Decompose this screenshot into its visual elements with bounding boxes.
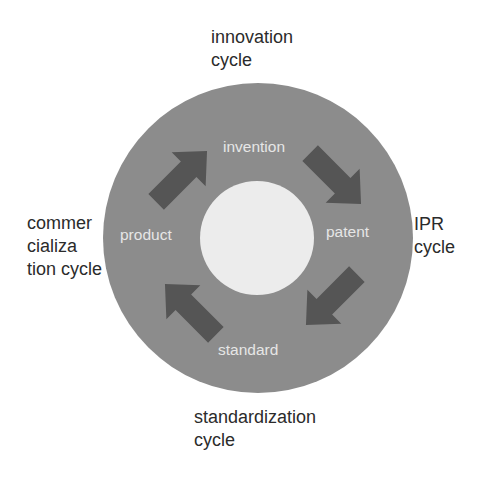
node-invention: invention	[223, 138, 285, 155]
innovation-cycle-label: innovation cycle	[211, 26, 293, 72]
innovation-cycle-diagram: invention patent standard product innova…	[0, 0, 485, 478]
commercialization-cycle-label: commer cializa tion cycle	[27, 212, 102, 281]
ipr-cycle-label: IPR cycle	[414, 213, 455, 259]
standardization-cycle-label: standardization cycle	[194, 406, 316, 452]
node-patent: patent	[326, 223, 370, 240]
node-standard: standard	[218, 341, 278, 358]
inner-circle	[200, 181, 314, 295]
node-product: product	[120, 226, 172, 243]
